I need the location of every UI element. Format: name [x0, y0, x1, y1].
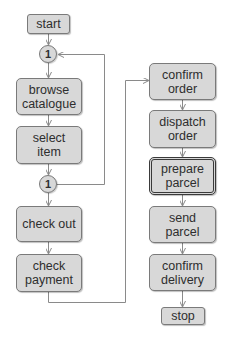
connector-1-top: 1 [39, 45, 57, 63]
confirm-delivery-node: confirmdelivery [149, 254, 216, 291]
select-label-line2: item [37, 145, 61, 159]
browse-label-line1: browse [29, 83, 69, 97]
stop-node: stop [161, 307, 205, 325]
check-out-node: check out [16, 206, 82, 242]
prepare-parcel-node: prepareparcel [149, 157, 216, 195]
check-payment-node: checkpayment [16, 254, 82, 292]
connector-label: 1 [45, 48, 51, 60]
checkpay-label-line1: check [33, 259, 66, 273]
prepare-line1: prepare [161, 162, 204, 176]
connector-label: 1 [45, 178, 51, 190]
confirm-order-line1: confirm [162, 68, 203, 82]
send-line2: parcel [165, 225, 199, 239]
prepare-line2: parcel [165, 176, 199, 190]
confirm-delivery-line2: delivery [161, 273, 204, 287]
send-line1: send [169, 211, 196, 225]
check-out-label: check out [22, 217, 76, 231]
confirm-order-node: confirmorder [149, 63, 216, 100]
browse-catalogue-node: browsecatalogue [16, 78, 82, 115]
connector-1-bottom: 1 [39, 175, 57, 193]
dispatch-line1: dispatch [159, 115, 206, 129]
dispatch-line2: order [168, 129, 197, 143]
start-label: start [36, 17, 60, 31]
stop-label: stop [171, 309, 195, 323]
checkpay-label-line2: payment [25, 273, 73, 287]
select-label-line1: select [33, 131, 66, 145]
confirm-delivery-line1: confirm [162, 259, 203, 273]
send-parcel-node: sendparcel [149, 206, 216, 243]
select-item-node: selectitem [16, 126, 82, 164]
start-node: start [27, 14, 70, 34]
dispatch-order-node: dispatchorder [149, 110, 216, 148]
browse-label-line2: catalogue [22, 97, 76, 111]
confirm-order-line2: order [168, 82, 197, 96]
